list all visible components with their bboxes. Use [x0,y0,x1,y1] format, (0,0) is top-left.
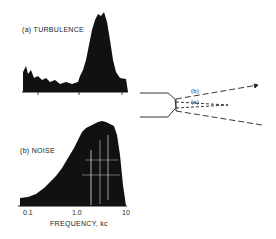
noise-spectrum [18,121,127,206]
nozzle-diagram [140,84,262,125]
figure-graphics [0,0,276,239]
x-tick-1-0: 1.0 [72,209,82,216]
panel-a-label: (a) TURBULENCE [22,26,84,33]
x-tick-0-1: 0.1 [23,209,33,216]
diagram-label-a: (a) [191,99,199,105]
diagram-label-b: (b) [191,88,199,94]
x-axis-title: FREQUENCY, kc [50,220,108,227]
x-tick-10: 10 [122,209,130,216]
turbulence-spectrum [22,12,128,95]
panel-b-label: (b) NOISE [20,147,55,154]
